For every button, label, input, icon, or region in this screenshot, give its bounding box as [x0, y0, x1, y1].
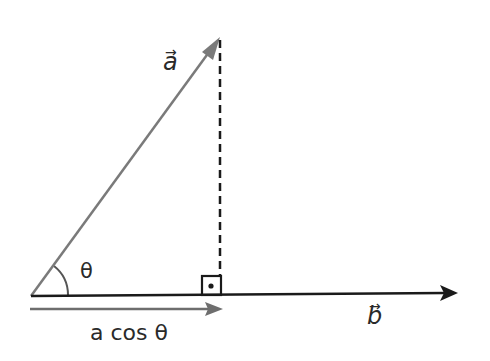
vector-b-label: → b	[367, 304, 382, 328]
angle-arc	[54, 266, 68, 295]
diagram-canvas	[0, 0, 490, 361]
vector-a-label: → a	[163, 50, 178, 74]
vector-b-line	[31, 293, 445, 296]
vector-a-line	[31, 48, 212, 296]
angle-theta-label: θ	[80, 261, 93, 282]
vector-a-text: a	[163, 48, 178, 76]
right-angle-dot	[208, 283, 213, 288]
vector-b-text: b	[367, 302, 382, 330]
projection-label: a cos θ	[90, 322, 168, 344]
